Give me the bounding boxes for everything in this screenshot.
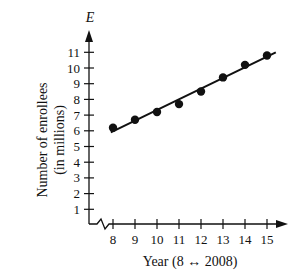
data-point <box>241 61 249 69</box>
x-tick-label: 13 <box>217 232 230 247</box>
y-tick-label: 8 <box>74 92 81 107</box>
y-tick-label: 11 <box>67 45 80 60</box>
y-axis-title-line-2: (in millions) <box>52 105 68 175</box>
y-tick-label: 4 <box>74 155 81 170</box>
y-axis-arrow-icon <box>85 30 93 42</box>
y-tick-label: 2 <box>74 186 81 201</box>
y-tick-label: 1 <box>74 202 81 217</box>
data-point <box>219 73 227 81</box>
data-points <box>109 51 271 132</box>
x-axis: 89101112131415 <box>89 219 288 247</box>
chart: 1234567891011 89101112131415 E Number of… <box>0 0 295 274</box>
data-point <box>175 100 183 108</box>
y-axis: 1234567891011 <box>67 30 94 224</box>
x-axis-arrow-icon <box>276 220 288 228</box>
data-point <box>131 116 139 124</box>
x-tick-label: 14 <box>239 232 253 247</box>
data-point <box>263 51 271 59</box>
y-tick-label: 5 <box>74 139 81 154</box>
x-axis-line <box>89 219 276 229</box>
y-tick-label: 7 <box>74 108 81 123</box>
data-point <box>197 87 205 95</box>
x-tick-label: 8 <box>110 232 117 247</box>
x-tick-label: 12 <box>195 232 208 247</box>
y-tick-label: 9 <box>74 76 81 91</box>
x-tick-label: 9 <box>132 232 139 247</box>
y-tick-label: 3 <box>74 170 81 185</box>
y-axis-title-line-1: Number of enrollees <box>35 82 50 197</box>
x-tick-label: 11 <box>173 232 186 247</box>
y-tick-label: 10 <box>67 61 80 76</box>
y-tick-label: 6 <box>74 123 81 138</box>
data-point <box>153 108 161 116</box>
data-point <box>109 123 117 131</box>
x-tick-label: 15 <box>261 232 274 247</box>
y-axis-title: Number of enrollees (in millions) <box>35 82 68 197</box>
x-tick-label: 10 <box>151 232 164 247</box>
x-axis-title: Year (8 ↔ 2008) <box>143 254 238 270</box>
y-axis-variable: E <box>85 10 95 25</box>
